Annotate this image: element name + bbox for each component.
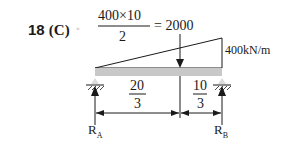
equation-numerator: 400×10 — [98, 8, 141, 24]
dimension-left-numerator: 20 — [130, 78, 144, 94]
triangular-load — [95, 38, 222, 68]
reaction-b-subscript: B — [223, 131, 228, 140]
reaction-a-subscript: A — [97, 131, 103, 140]
dimension-left-denominator: 3 — [134, 96, 141, 112]
reaction-a-symbol: R — [88, 122, 97, 137]
reaction-b-symbol: R — [214, 122, 223, 137]
dimension-right-numerator: 10 — [193, 78, 207, 94]
reaction-a-label: RA — [88, 122, 102, 140]
beam — [95, 68, 222, 76]
equation-denominator: 2 — [119, 29, 126, 45]
load-intensity-label: 400kN/m — [225, 43, 270, 58]
arrow-head-icon — [176, 59, 184, 68]
left-support-icon — [91, 78, 99, 84]
right-support-icon — [218, 78, 226, 84]
reaction-b-label: RB — [214, 122, 228, 140]
equation-result: = 2000 — [154, 18, 193, 34]
dimension-right-denominator: 3 — [197, 96, 204, 112]
